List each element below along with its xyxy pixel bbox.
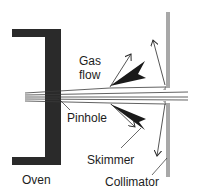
arrow-icon <box>153 40 165 85</box>
collimator-plate <box>163 12 170 177</box>
pinhole-label: Pinhole <box>67 112 107 125</box>
gas-flow-arrows <box>110 40 165 156</box>
gas-flow-label-line2: flow <box>79 69 100 82</box>
skimmer-label: Skimmer <box>87 154 134 167</box>
collimator-leader <box>152 158 167 175</box>
skimmer-leader <box>121 128 141 148</box>
collimator-label: Collimator <box>105 176 159 189</box>
skimmer-upper <box>110 61 146 86</box>
arrow-icon <box>157 104 165 156</box>
gas-flow-label-line1: Gas <box>79 55 101 68</box>
oven-label: Oven <box>22 174 51 187</box>
